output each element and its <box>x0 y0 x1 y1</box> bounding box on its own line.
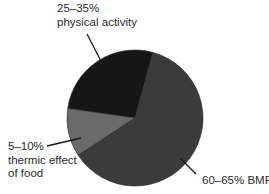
label-bmr-text: 60–65% BMR <box>202 174 269 188</box>
label-thermic-effect-text-2: of food <box>8 167 77 181</box>
label-physical-activity: 25–35% physical activity <box>57 2 137 29</box>
pie-slices <box>67 50 203 186</box>
label-physical-activity-text: physical activity <box>57 16 137 30</box>
label-physical-activity-range: 25–35% <box>57 2 137 16</box>
label-bmr: 60–65% BMR <box>202 174 269 188</box>
label-thermic-effect-range: 5–10% <box>8 140 77 154</box>
label-thermic-effect: 5–10% thermic effect of food <box>8 140 77 181</box>
label-thermic-effect-text-1: thermic effect <box>8 154 77 168</box>
